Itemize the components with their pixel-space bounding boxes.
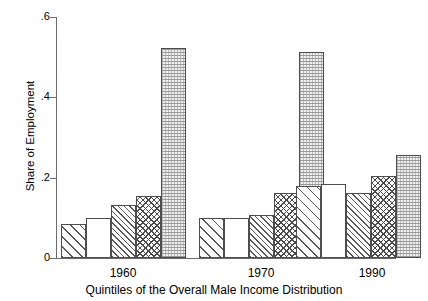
x-group-label-1960: 1960 bbox=[83, 266, 163, 280]
x-axis-title: Quintiles of the Overall Male Income Dis… bbox=[0, 283, 428, 297]
bar-1970-q3 bbox=[249, 215, 274, 258]
x-group-label-1970: 1970 bbox=[221, 266, 301, 280]
bar-1970-q2 bbox=[224, 218, 249, 258]
bar-1960-q5 bbox=[161, 48, 186, 258]
bar-1990-q1 bbox=[296, 186, 321, 258]
bar-1990-q4 bbox=[371, 176, 396, 258]
bar-1990-q5 bbox=[396, 155, 421, 258]
bar-1970-q1 bbox=[199, 218, 224, 258]
bar-1960-q4 bbox=[136, 196, 161, 258]
plot-area bbox=[0, 0, 428, 301]
bar-1990-q3 bbox=[346, 193, 371, 258]
bar-1960-q3 bbox=[111, 205, 136, 258]
bar-1960-q1 bbox=[61, 224, 86, 258]
bar-1990-q2 bbox=[321, 184, 346, 258]
bar-1960-q2 bbox=[86, 218, 111, 258]
x-group-label-1990: 1990 bbox=[332, 266, 412, 280]
bar-chart: Share of Employment .6 .4 .2 0 bbox=[0, 0, 428, 301]
